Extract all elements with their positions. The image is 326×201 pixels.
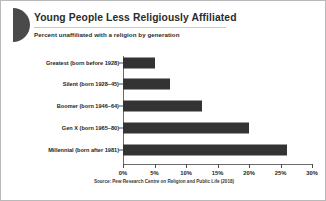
y-axis-tick-label: Boomer (born 1946–64) (57, 103, 119, 109)
x-axis-tick (186, 164, 187, 168)
y-axis-tick (119, 63, 123, 64)
half-circle-icon (13, 8, 30, 42)
x-axis-tick (218, 164, 219, 168)
x-axis-tick-label: 30% (306, 170, 318, 176)
plot-area: Greatest (born before 1928)Silent (born … (1, 53, 326, 168)
x-axis-tick (123, 164, 124, 168)
bar (123, 145, 287, 156)
y-axis-tick (119, 128, 123, 129)
y-axis-tick (119, 106, 123, 107)
x-axis-tick-label: 25% (275, 170, 287, 176)
y-axis-tick-label: Greatest (born before 1928) (46, 60, 119, 66)
chart-title: Young People Less Religiously Affiliated (34, 12, 237, 23)
source-note: Source: Pew Research Centre on Religion … (1, 179, 326, 184)
x-axis-tick (155, 164, 156, 168)
bar (123, 101, 202, 112)
x-axis-tick-label: 15% (212, 170, 224, 176)
title-divider (34, 27, 226, 28)
x-axis-tick-label: 10% (180, 170, 192, 176)
chart-header: Young People Less Religiously Affiliated… (1, 1, 326, 49)
bar (123, 79, 170, 90)
chart-subtitle: Percent unaffiliated with a religion by … (34, 31, 180, 38)
bar (123, 58, 155, 69)
bar (123, 123, 249, 134)
x-axis-tick (281, 164, 282, 168)
y-axis-tick (119, 150, 123, 151)
x-axis-tick (312, 164, 313, 168)
x-axis-tick-label: 20% (243, 170, 255, 176)
y-axis-tick-label: Millennial (born after 1981) (48, 147, 119, 153)
y-axis-tick-label: Silent (born 1928–45) (63, 81, 119, 87)
chart-figure: Young People Less Religiously Affiliated… (0, 0, 326, 201)
y-axis-tick-label: Gen X (born 1965–80) (62, 125, 119, 131)
x-axis-tick-label: 5% (150, 170, 158, 176)
y-axis-tick (119, 84, 123, 85)
x-axis-tick-label: 0% (119, 170, 127, 176)
x-axis-tick (249, 164, 250, 168)
